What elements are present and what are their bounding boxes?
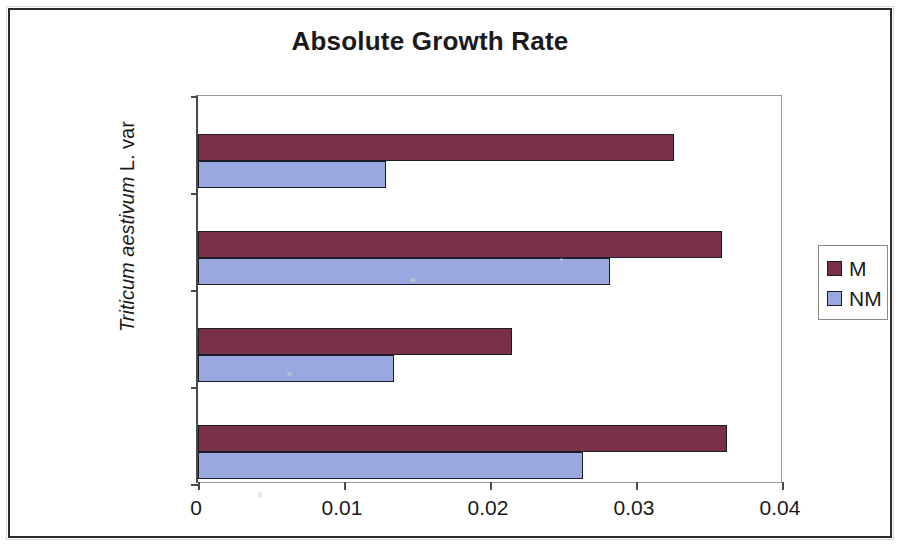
bar-nm xyxy=(198,355,394,382)
scan-speckle xyxy=(258,492,262,498)
y-axis-tick xyxy=(191,387,198,389)
x-axis-tick-label: 0.02 xyxy=(443,496,533,520)
bar-m xyxy=(198,134,674,161)
legend-swatch-nm xyxy=(827,291,842,306)
x-axis-tick xyxy=(636,482,638,490)
bar-nm xyxy=(198,452,583,479)
scan-speckle xyxy=(560,258,563,261)
plot-area: DWR 162DWR 195DWR 225NI5439 xyxy=(196,95,782,483)
legend-label: NM xyxy=(849,288,882,309)
legend-item: NM xyxy=(827,288,881,309)
chart-canvas: Absolute Growth Rate Triticum aestivum L… xyxy=(0,0,908,556)
x-axis-tick-label: 0.04 xyxy=(735,496,825,520)
legend-item: M xyxy=(827,258,881,279)
scan-speckle xyxy=(287,372,292,376)
x-axis-tick-label: 0.03 xyxy=(589,496,679,520)
bar-m xyxy=(198,328,512,355)
y-axis-tick xyxy=(191,193,198,195)
y-axis-tick xyxy=(191,96,198,98)
x-axis-tick-label: 0.01 xyxy=(297,496,387,520)
bar-nm xyxy=(198,258,610,285)
x-axis-tick xyxy=(782,482,784,490)
x-axis-tick xyxy=(198,482,200,490)
x-axis-tick xyxy=(490,482,492,490)
x-axis-tick xyxy=(344,482,346,490)
chart-title: Absolute Growth Rate xyxy=(180,26,680,57)
x-axis-tick-label: 0 xyxy=(151,496,241,520)
legend-label: M xyxy=(849,258,867,279)
y-axis-tick xyxy=(191,484,198,486)
y-axis-title-roman: L. var xyxy=(116,121,138,177)
bar-nm xyxy=(198,161,386,188)
bar-m xyxy=(198,425,727,452)
bar-m xyxy=(198,231,722,258)
y-axis-title: Triticum aestivum L. var xyxy=(116,82,139,372)
y-axis-tick xyxy=(191,290,198,292)
y-axis-title-italic: Triticum aestivum xyxy=(116,177,138,332)
chart-legend: MNM xyxy=(818,245,888,320)
scan-speckle xyxy=(410,278,416,282)
legend-swatch-m xyxy=(827,261,842,276)
